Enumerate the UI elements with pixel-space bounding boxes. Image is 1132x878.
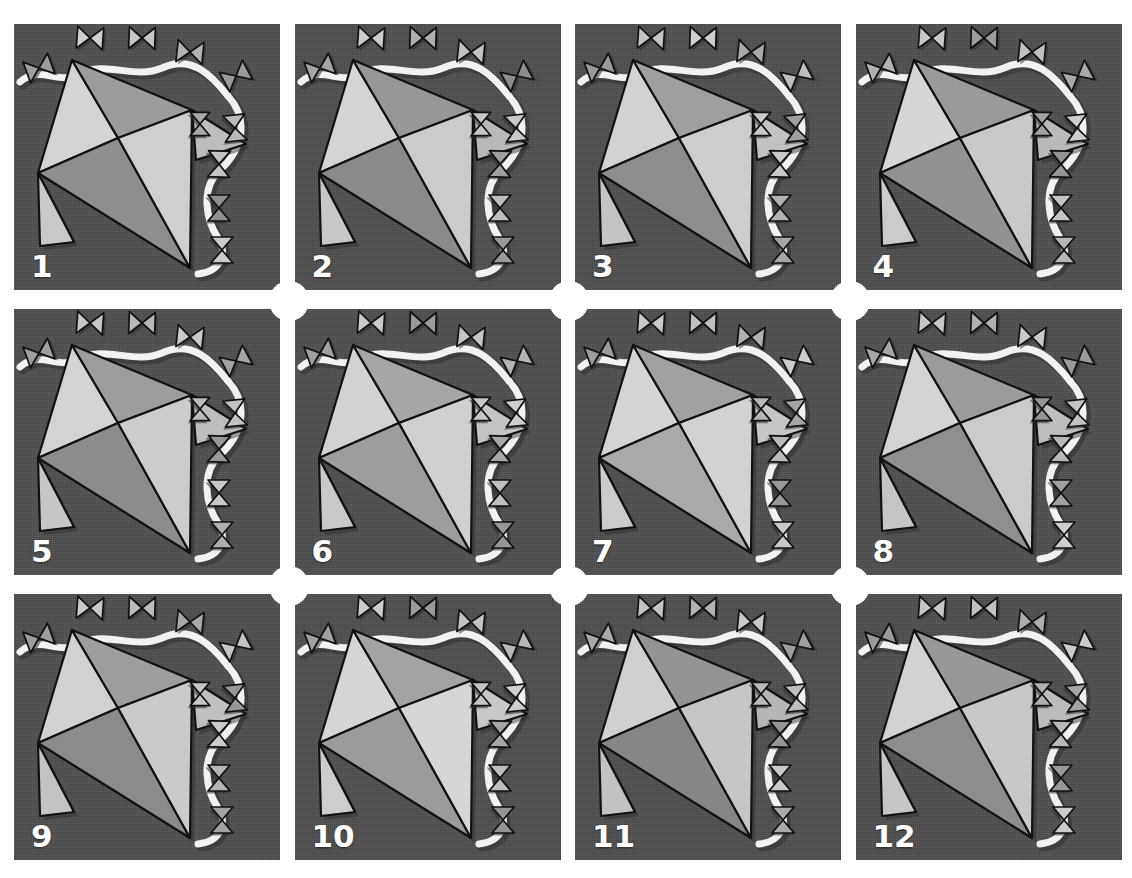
figure-panel-4: 4 <box>856 24 1122 290</box>
figure-panel-8: 8 <box>856 309 1122 575</box>
panel-number-label: 12 <box>873 821 916 852</box>
figure-panel-11: 11 <box>575 594 841 860</box>
figure-panel-7: 7 <box>575 309 841 575</box>
panel-corner-notch <box>549 281 589 321</box>
panel-number-label: 8 <box>873 536 895 567</box>
panel-number-label: 10 <box>312 821 355 852</box>
panel-corner-notch <box>269 566 309 606</box>
panel-corner-notch <box>830 281 870 321</box>
figure-panel-12: 12 <box>856 594 1122 860</box>
figure-canvas: 1 <box>0 0 1132 878</box>
panel-number-label: 7 <box>592 536 614 567</box>
panel-number-label: 1 <box>31 251 53 282</box>
figure-panel-1: 1 <box>14 24 280 290</box>
panel-number-label: 5 <box>31 536 53 567</box>
panel-corner-notch <box>269 281 309 321</box>
figure-panel-9: 9 <box>14 594 280 860</box>
figure-panel-6: 6 <box>295 309 561 575</box>
panel-number-label: 9 <box>31 821 53 852</box>
panel-number-label: 11 <box>592 821 635 852</box>
panel-number-label: 3 <box>592 251 614 282</box>
figure-panel-3: 3 <box>575 24 841 290</box>
figure-panel-10: 10 <box>295 594 561 860</box>
panel-number-label: 2 <box>312 251 334 282</box>
panel-number-label: 6 <box>312 536 334 567</box>
panel-grid: 1 <box>0 0 1132 878</box>
figure-panel-2: 2 <box>295 24 561 290</box>
panel-corner-notch <box>549 566 589 606</box>
panel-number-label: 4 <box>873 251 895 282</box>
figure-panel-5: 5 <box>14 309 280 575</box>
panel-corner-notch <box>830 566 870 606</box>
